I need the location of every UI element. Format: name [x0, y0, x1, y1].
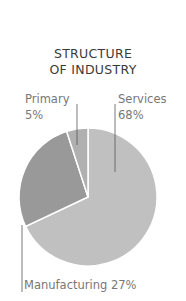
pie-chart [0, 0, 186, 301]
pie-slices [19, 128, 157, 266]
